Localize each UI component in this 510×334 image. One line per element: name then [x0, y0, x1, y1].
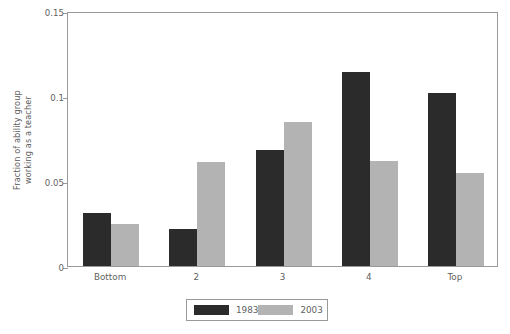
y-axis-title-line-1: Fraction of ability group [12, 90, 23, 190]
bar-2-1983 [169, 229, 197, 266]
x-axis-label-3: 3 [280, 272, 286, 282]
y-tick-label-3: 0.15 [45, 8, 64, 18]
bar-4-2003 [370, 161, 398, 266]
bar-top-2003 [456, 173, 484, 267]
bar-2-2003 [197, 162, 225, 266]
y-axis-title: Fraction of ability group working as a t… [0, 0, 36, 280]
legend-entry-2003: 2003 [258, 305, 322, 315]
bar-bottom-1983 [83, 213, 111, 266]
x-axis-label-top: Top [447, 272, 462, 282]
bar-4-1983 [342, 72, 370, 266]
y-tick-label-2: 0.1 [50, 93, 64, 103]
legend-swatch-1983 [194, 305, 229, 315]
legend-swatch-2003 [258, 305, 293, 315]
bar-3-2003 [284, 122, 312, 267]
legend-label-1983: 1983 [236, 305, 258, 315]
y-tick-label-1: 0.05 [45, 178, 64, 188]
legend-label-2003: 2003 [300, 305, 322, 315]
x-axis-label-2: 2 [193, 272, 199, 282]
y-tick-label-0: 0 [59, 263, 64, 273]
legend-entry-1983: 1983 [194, 305, 258, 315]
y-axis-title-line-2: working as a teacher [22, 90, 33, 190]
bar-chart-figure: Fraction of ability group working as a t… [0, 0, 510, 334]
bar-bottom-2003 [111, 224, 139, 267]
bar-top-1983 [428, 93, 456, 266]
bar-3-1983 [256, 150, 284, 266]
x-axis-label-bottom: Bottom [94, 272, 126, 282]
chart-legend: 1983 2003 [186, 299, 328, 321]
x-axis-label-4: 4 [366, 272, 372, 282]
plot-area: 00.050.10.15 [67, 12, 498, 267]
